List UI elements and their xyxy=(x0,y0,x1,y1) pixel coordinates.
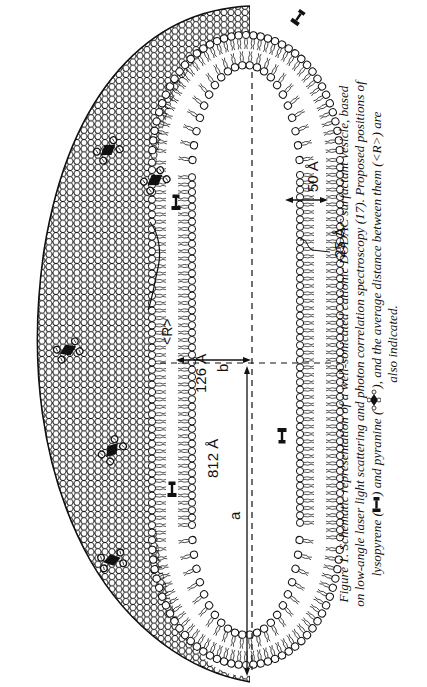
caption-line-3-start: lysopyrene ( xyxy=(369,512,384,576)
figure-caption: Figure 1. Schematic representation of a … xyxy=(336,4,422,684)
pyranine-legend-icon xyxy=(367,389,381,411)
caption-line-3-end: ), and the average distance between them… xyxy=(369,112,384,389)
caption-line-4: also indicated. xyxy=(385,4,401,684)
caption-line-2: on low-angle laser light scattering and … xyxy=(352,4,368,684)
label-b-dimension: 126 Å xyxy=(192,354,209,393)
label-b-symbol: b xyxy=(214,364,231,372)
caption-line-3-middle: ) and pyranine ( xyxy=(369,411,384,496)
caption-line-3: lysopyrene () and pyranine (), and the a… xyxy=(367,4,385,684)
lysopyrene-legend-icon xyxy=(372,496,381,512)
label-a-dimension: 812 Å xyxy=(204,439,221,478)
label-probe-distance: <R> xyxy=(159,319,175,345)
caption-line-1: Figure 1. Schematic representation of a … xyxy=(336,4,352,684)
lysopyrene-icon xyxy=(290,8,306,26)
label-bilayer-thickness: 50 Å xyxy=(304,161,321,192)
label-a-symbol: a xyxy=(226,511,243,520)
vesicle-bilayer-cross-section xyxy=(154,34,342,676)
